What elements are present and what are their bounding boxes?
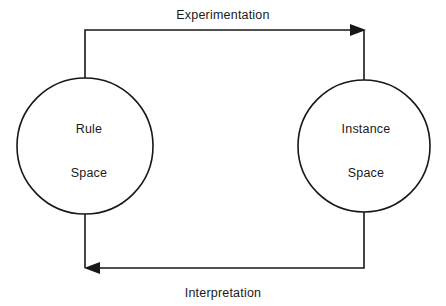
edge-label-experimentation: Experimentation [176,8,269,22]
diagram-canvas: Rule Space Instance Space Experimentatio… [0,0,446,306]
cycle-diagram: Rule Space Instance Space Experimentatio… [0,0,446,306]
node-rule-space-label-line2: Space [71,166,107,180]
interpretation-arrowhead-icon [84,262,100,274]
node-instance-space-circle [298,80,430,212]
experimentation-edge-line [85,30,358,78]
node-rule-space-label-line1: Rule [76,122,103,136]
node-instance-space-label-line1: Instance [342,122,391,136]
node-instance-space-label-line2: Space [348,166,384,180]
interpretation-edge-line [94,212,364,268]
node-rule-space-circle [17,78,153,214]
edge-label-interpretation: Interpretation [185,286,261,300]
